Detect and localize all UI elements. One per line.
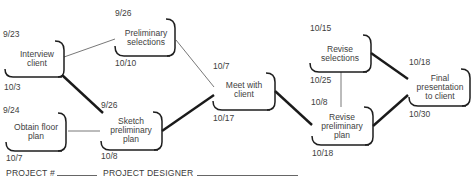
task-label-line-3: plan	[334, 130, 350, 140]
start-date: 9/24	[3, 105, 20, 115]
bracket-top-right	[58, 113, 66, 151]
task-preliminary-selections: 9/26 Preliminary selections 10/10	[115, 8, 175, 68]
bracket-top-right	[266, 73, 275, 110]
end-date: 10/3	[4, 82, 21, 92]
task-label-line-3: plan	[123, 134, 139, 144]
task-revise-selections: 10/15 Revise selections 10/25	[310, 23, 371, 85]
link-interview-sketch	[62, 75, 103, 113]
task-sketch-preliminary-plan: 9/26 Sketch preliminary plan 10/8	[101, 100, 162, 161]
task-label-line-2: client	[234, 89, 254, 99]
bracket-top-right	[166, 19, 175, 56]
start-date: 9/26	[101, 100, 118, 110]
bracket-bottom-left	[5, 69, 62, 77]
start-date: 10/18	[409, 57, 431, 67]
project-designer-blank[interactable]	[197, 168, 298, 176]
bracket-bottom-left	[115, 46, 170, 56]
bracket-bottom-left	[6, 142, 62, 151]
task-label-line-2: selections	[321, 53, 359, 63]
link-revise-selections-final	[371, 53, 408, 79]
project-number-label: PROJECT #	[6, 168, 55, 178]
bracket-bottom-left	[310, 63, 367, 72]
task-obtain-floor-plan: 9/24 Obtain floor plan 10/7	[3, 105, 66, 163]
bracket-top-right	[363, 35, 371, 72]
task-label-line-3: to client	[425, 91, 455, 101]
end-date: 10/17	[213, 113, 235, 123]
link-interview-prelim-selections	[64, 39, 115, 57]
project-number-field: PROJECT #	[6, 168, 97, 178]
start-date: 10/15	[310, 23, 332, 33]
task-label-line-2: selections	[127, 37, 165, 47]
task-final-presentation: 10/18 Final presentation to client 10/30	[409, 57, 470, 119]
task-meet-with-client: 10/7 Meet with client 10/17	[213, 61, 275, 123]
end-date: 10/25	[310, 75, 332, 85]
task-label-line-2: plan	[28, 131, 44, 141]
start-date: 9/23	[3, 29, 20, 39]
bracket-top-right	[364, 107, 373, 145]
task-interview-client: 9/23 Interview client 10/3	[3, 29, 64, 92]
project-designer-label: PROJECT DESIGNER	[103, 168, 193, 178]
critical-path-diagram: 9/23 Interview client 10/3 9/26 Prelimin…	[0, 0, 474, 186]
start-date: 10/8	[311, 97, 328, 107]
link-sketch-meet	[162, 95, 214, 131]
link-prelim-selections-meet	[176, 40, 214, 87]
start-date: 10/7	[213, 61, 230, 71]
link-meet-revise-plan	[275, 91, 312, 125]
project-designer-field: PROJECT DESIGNER	[103, 168, 298, 178]
bracket-top-right	[55, 41, 64, 77]
link-revise-plan-final	[373, 95, 408, 126]
task-label-line-2: client	[27, 58, 47, 68]
end-date: 10/8	[101, 151, 118, 161]
start-date: 9/26	[115, 8, 132, 18]
end-date: 10/10	[115, 58, 137, 68]
end-date: 10/18	[312, 148, 334, 158]
bracket-top-right	[153, 112, 162, 150]
end-date: 10/7	[6, 153, 23, 163]
task-revise-preliminary-plan: 10/8 Revise preliminary plan 10/18	[311, 97, 373, 158]
end-date: 10/30	[409, 109, 431, 119]
bracket-bottom-left	[213, 101, 270, 110]
project-number-blank[interactable]	[57, 168, 97, 176]
